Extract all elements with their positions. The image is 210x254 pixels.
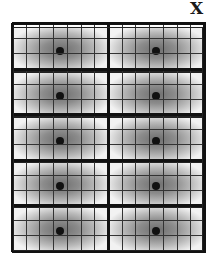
axis-label-x: X [190,0,203,18]
grid-cell-border [203,23,206,252]
grid-cell-border [12,22,206,25]
offset-grid-frame [13,27,203,251]
